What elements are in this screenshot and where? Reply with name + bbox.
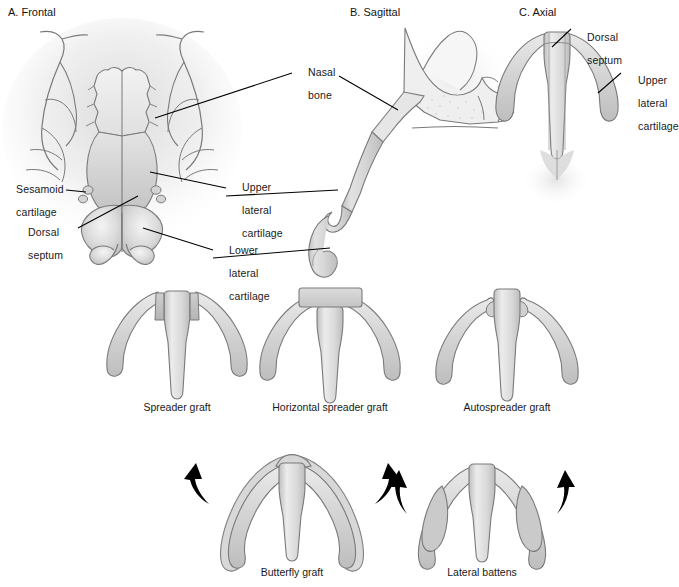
label-ulc-frontal-line1: Upper [242, 181, 271, 193]
label-llc-frontal-line1: Lower [229, 244, 258, 256]
label-dorsal-septum-axial-line1: Dorsal [587, 31, 618, 43]
graft-horizontal-spreader-art [260, 288, 400, 403]
panel-title-frontal: A. Frontal [8, 6, 56, 18]
panel-title-sagittal: B. Sagittal [350, 6, 400, 18]
label-dorsal-septum-axial-line2: septum [587, 54, 622, 66]
label-sesamoid-cartilage-line1: Sesamoid [16, 183, 64, 195]
label-dorsal-septum-frontal-line1: Dorsal [28, 226, 59, 238]
label-upper-lateral-cartilage-axial: Upper lateral cartilage [626, 63, 679, 144]
butterfly-arrow-left [184, 463, 209, 504]
label-dorsal-septum-frontal: Dorsal septum [16, 215, 63, 273]
graft-autospreader-art [436, 289, 578, 401]
battens-arrow-right [557, 470, 575, 514]
label-ulc-axial-line1: Upper [638, 74, 667, 86]
caption-spreader-graft: Spreader graft [97, 401, 257, 413]
anatomy-illustration [0, 0, 679, 587]
graft-butterfly-art [184, 455, 400, 572]
label-nasal-bone-line2: bone [308, 89, 332, 101]
label-dorsal-septum-axial: Dorsal septum [575, 20, 622, 78]
label-ulc-axial-line2: lateral [638, 97, 667, 109]
label-nasal-bone: Nasal bone [296, 55, 335, 113]
label-dorsal-septum-frontal-line2: septum [28, 249, 63, 261]
label-ulc-frontal-line2: lateral [242, 204, 271, 216]
caption-lateral-battens: Lateral battens [402, 566, 562, 578]
label-lower-lateral-cartilage-frontal: Lower lateral cartilage [217, 233, 270, 314]
label-llc-frontal-line2: lateral [229, 267, 258, 279]
caption-autospreader-graft: Autospreader graft [427, 401, 587, 413]
caption-butterfly-graft: Butterfly graft [212, 566, 372, 578]
panel-title-axial: C. Axial [519, 6, 556, 18]
figure-root: A. Frontal B. Sagittal C. Axial Nasal bo… [0, 0, 679, 587]
label-ulc-axial-line3: cartilage [638, 120, 679, 132]
caption-horizontal-spreader-graft: Horizontal spreader graft [250, 401, 410, 413]
graft-lateral-battens-art [389, 464, 575, 569]
label-nasal-bone-line1: Nasal [308, 66, 335, 78]
label-llc-frontal-line3: cartilage [229, 290, 270, 302]
